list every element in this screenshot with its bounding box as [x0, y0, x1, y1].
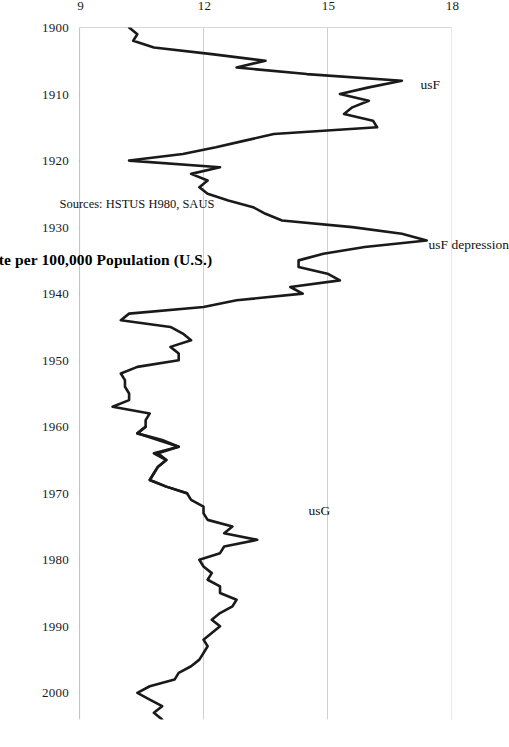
x-tick-label: 1900 — [32, 19, 78, 35]
axis-lines — [79, 27, 451, 719]
series-label-usg: usG — [308, 502, 330, 518]
y-tick-label: 9 — [60, 0, 100, 13]
x-tick-label: 1910 — [32, 86, 78, 102]
x-tick-label: 1970 — [32, 485, 78, 501]
x-tick-label: 1940 — [32, 285, 78, 301]
x-tick-label: 1980 — [32, 551, 78, 567]
x-tick-label: 1930 — [32, 219, 78, 235]
figure-caption: Figure 6.11 - Suicide Rate per 100,000 P… — [0, 250, 212, 268]
source-note: Sources: HSTUS H980, SAUS — [59, 196, 214, 211]
series-label-usf: usF — [420, 76, 440, 92]
y-tick-label: 15 — [308, 0, 348, 13]
x-tick-label: 2000 — [32, 684, 78, 700]
y-tick-label: 18 — [432, 0, 472, 13]
series-label-usf-depression: usF depression — [428, 236, 509, 252]
x-tick-label: 1990 — [32, 618, 78, 634]
x-tick-label: 1950 — [32, 352, 78, 368]
chart-svg — [79, 27, 451, 719]
plot-area: usF usF depression usG — [79, 27, 451, 719]
y-tick-label: 12 — [184, 0, 224, 13]
x-tick-label: 1920 — [32, 152, 78, 168]
x-tick-label: 1960 — [32, 418, 78, 434]
data-series — [112, 27, 426, 719]
